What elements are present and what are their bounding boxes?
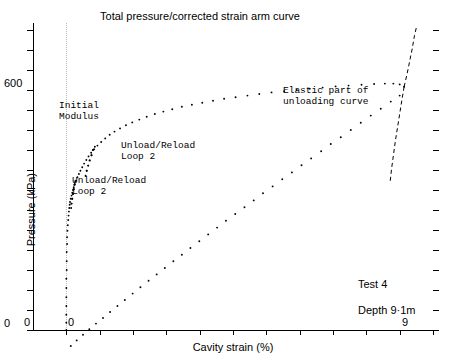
y-tick-right — [433, 210, 439, 211]
y-tick-right — [433, 170, 439, 171]
y-tick — [27, 50, 33, 51]
y-axis-origin-label: 0 — [24, 316, 30, 328]
y-tick — [27, 330, 33, 331]
x-tick — [200, 330, 201, 335]
y-tick-right — [433, 230, 439, 231]
x-tick-label: 0 — [68, 316, 74, 328]
y-tick — [27, 110, 33, 111]
y-axis-title: Pressure (kPa) — [25, 173, 37, 246]
x-tick — [366, 330, 367, 335]
annotation-unload-reload-upper: Unload/Reload Loop 2 — [121, 140, 195, 162]
y-tick-right — [433, 70, 439, 71]
plot-area: 06000 09 Initial Modulus Unload/Reload L… — [33, 23, 433, 330]
series-points — [70, 95, 401, 347]
annotation-initial-modulus: Initial Modulus — [59, 100, 99, 122]
series-line — [404, 26, 417, 87]
y-tick — [27, 170, 33, 171]
y-tick-label: 0 — [4, 317, 10, 329]
y-tick — [27, 90, 33, 91]
y-tick-right — [433, 290, 439, 291]
x-tick — [433, 330, 434, 335]
y-tick — [27, 30, 33, 31]
x-tick — [100, 330, 101, 335]
y-tick-right — [433, 270, 439, 271]
y-tick-right — [433, 30, 439, 31]
x-tick — [133, 330, 134, 335]
zero-strain-reference-line — [66, 23, 67, 330]
y-tick — [27, 310, 33, 311]
chart-figure: Total pressure/corrected strain arm curv… — [0, 0, 451, 354]
annotation-test-label: Test 4 — [358, 278, 387, 291]
annotation-elastic-unloading: Elastic part of unloading curve — [283, 85, 369, 107]
y-tick — [27, 130, 33, 131]
y-tick-right — [433, 310, 439, 311]
x-axis-title: Cavity strain (%) — [193, 341, 274, 353]
series-line — [390, 87, 404, 183]
y-tick — [27, 150, 33, 151]
y-tick-right — [433, 130, 439, 131]
x-tick-label: 9 — [402, 316, 408, 328]
y-tick-right — [433, 90, 439, 91]
y-tick-right — [433, 190, 439, 191]
y-tick-label: 600 — [4, 77, 22, 89]
chart-title: Total pressure/corrected strain arm curv… — [100, 10, 300, 22]
x-tick — [333, 330, 334, 335]
y-tick-right — [433, 150, 439, 151]
series-points — [85, 146, 96, 177]
x-tick — [300, 330, 301, 335]
x-tick — [66, 330, 67, 335]
y-tick — [27, 270, 33, 271]
y-tick — [27, 290, 33, 291]
y-tick — [27, 70, 33, 71]
annotation-unload-reload-lower: Unload/Reload Loop 2 — [72, 175, 146, 197]
x-tick — [233, 330, 234, 335]
x-tick — [400, 330, 401, 335]
y-tick-right — [433, 50, 439, 51]
annotation-depth-label: Depth 9·1m — [358, 304, 415, 317]
y-tick — [27, 250, 33, 251]
x-tick — [266, 330, 267, 335]
y-tick-right — [433, 110, 439, 111]
series-points — [65, 83, 405, 331]
x-tick — [166, 330, 167, 335]
y-tick-right — [433, 250, 439, 251]
